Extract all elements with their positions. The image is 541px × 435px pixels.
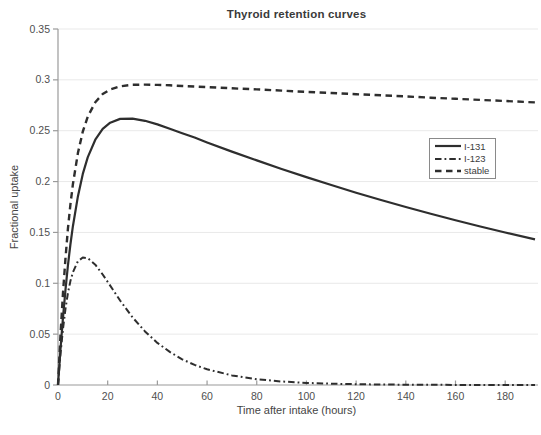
thyroid-retention-figure: 02040608010012014016018000.050.10.150.20…: [0, 0, 541, 435]
legend-line-sample-dash-dot: [434, 156, 462, 162]
x-tick-label-20: 20: [102, 390, 114, 402]
x-tick-label-60: 60: [201, 390, 213, 402]
legend-item-i-131: I-131: [434, 140, 493, 152]
y-tick-label-0.05: 0.05: [30, 328, 51, 340]
x-tick-label-40: 40: [152, 390, 164, 402]
legend-item-i-123: I-123: [434, 153, 493, 165]
y-tick-label-0.25: 0.25: [30, 124, 51, 136]
x-tick-label-180: 180: [496, 390, 514, 402]
x-tick-label-100: 100: [298, 390, 316, 402]
x-axis-title: Time after intake (hours): [58, 404, 535, 416]
curve-i-123: [58, 258, 535, 386]
y-tick-label-0.15: 0.15: [30, 226, 51, 238]
y-tick-label-0: 0: [44, 379, 50, 391]
y-tick-label-0.35: 0.35: [30, 23, 51, 35]
legend-label: I-131: [464, 142, 486, 152]
y-tick-label-0.3: 0.3: [35, 73, 50, 85]
legend: I-131I-123stable: [429, 138, 496, 179]
legend-line-sample-solid: [434, 143, 462, 149]
plot-canvas: 02040608010012014016018000.050.10.150.20…: [0, 0, 541, 435]
x-tick-label-140: 140: [397, 390, 415, 402]
x-tick-label-160: 160: [447, 390, 465, 402]
legend-line-sample-dashed: [434, 168, 462, 174]
x-tick-label-120: 120: [347, 390, 365, 402]
y-axis-title: Fractional uptake: [8, 165, 20, 249]
y-tick-label-0.2: 0.2: [35, 175, 50, 187]
chart-title: Thyroid retention curves: [58, 8, 535, 20]
legend-item-stable: stable: [434, 165, 493, 177]
y-tick-label-0.1: 0.1: [35, 277, 50, 289]
legend-label: I-123: [464, 154, 486, 164]
x-tick-label-80: 80: [251, 390, 263, 402]
x-tick-label-0: 0: [55, 390, 61, 402]
legend-label: stable: [464, 166, 489, 176]
curve-stable: [58, 85, 535, 385]
